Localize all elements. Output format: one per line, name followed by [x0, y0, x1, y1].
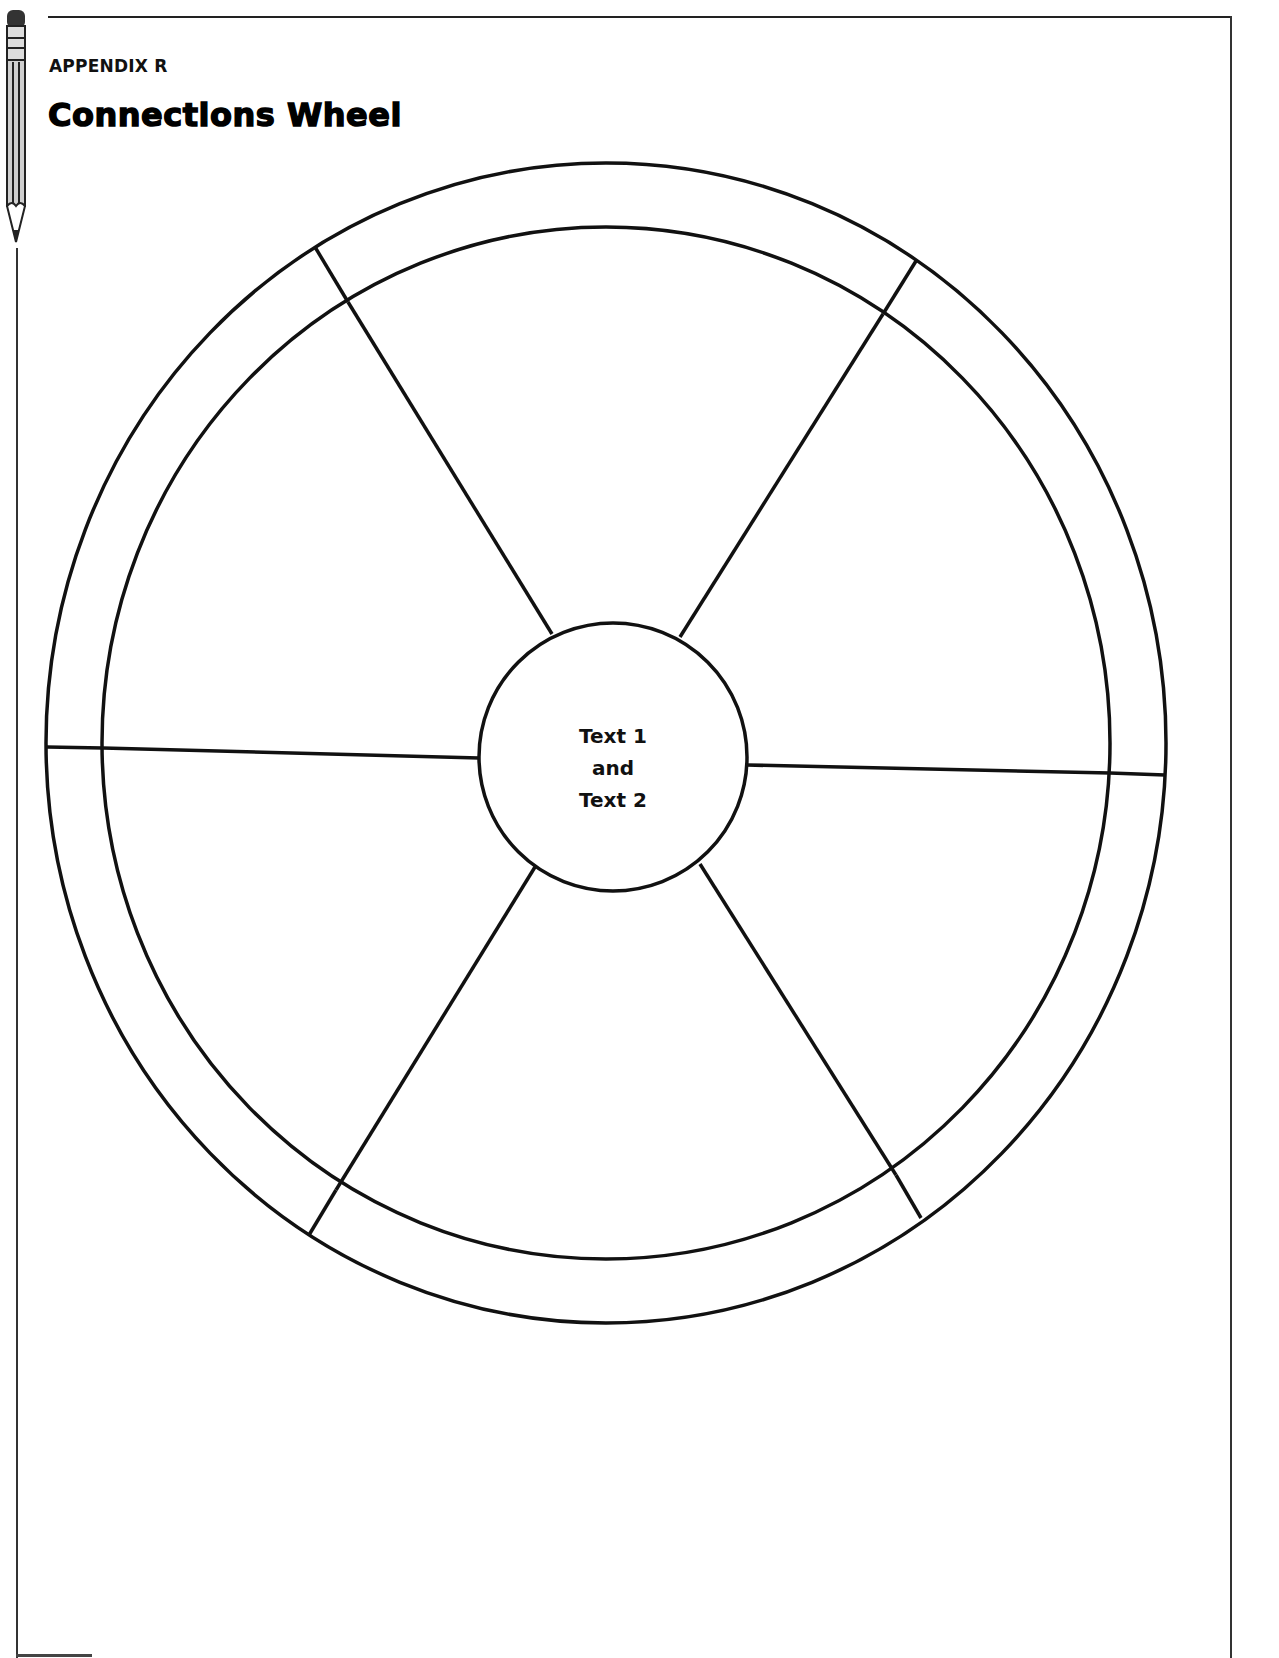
spoke-left [103, 748, 479, 758]
ring-divider-upper-left [315, 247, 348, 302]
ring-divider-upper-right [883, 261, 916, 314]
spoke-lower-left [336, 867, 535, 1190]
spoke-right [747, 765, 1110, 773]
spoke-upper-right [680, 314, 883, 637]
connections-wheel-diagram [0, 0, 1279, 1658]
ring-divider-lower-right [896, 1175, 921, 1218]
center-text-line-3: Text 2 [553, 784, 673, 816]
ring-divider-left [47, 747, 103, 748]
center-text-line-2: and [553, 752, 673, 784]
ring-divider-lower-left [309, 1190, 336, 1235]
center-text-line-1: Text 1 [553, 720, 673, 752]
center-hub-label: Text 1 and Text 2 [553, 720, 673, 816]
spoke-upper-left [348, 302, 552, 634]
ring-divider-right [1110, 773, 1165, 775]
spoke-lower-right [700, 864, 896, 1175]
